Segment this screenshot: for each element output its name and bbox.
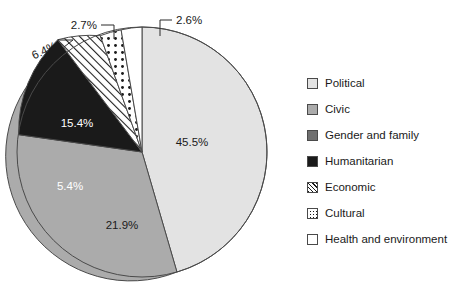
legend-label-economic: Economic bbox=[325, 181, 376, 194]
legend-swatch-gender-and-family bbox=[307, 130, 318, 141]
legend-item-political[interactable]: Political bbox=[307, 70, 453, 96]
callout-label-health-and-environment: 2.6% bbox=[176, 14, 202, 26]
legend-item-economic[interactable]: Economic bbox=[307, 174, 453, 200]
pie-chart: 45.5% 21.9% 5.4% 15.4% 6.4% 2.7% 2.6% Po… bbox=[0, 0, 454, 299]
legend-label-civic: Civic bbox=[325, 103, 350, 116]
legend-item-humanitarian[interactable]: Humanitarian bbox=[307, 148, 453, 174]
legend-label-humanitarian: Humanitarian bbox=[325, 155, 393, 168]
legend-swatch-civic bbox=[307, 104, 318, 115]
legend-swatch-political bbox=[307, 78, 318, 89]
legend-swatch-health-and-environment bbox=[307, 234, 318, 245]
legend-label-gender-and-family: Gender and family bbox=[325, 129, 419, 142]
legend-swatch-humanitarian bbox=[307, 156, 318, 167]
legend: Political Civic Gender and family Humani… bbox=[307, 70, 453, 252]
legend-swatch-economic bbox=[307, 182, 318, 193]
callout-label-cultural: 2.7% bbox=[71, 19, 97, 31]
legend-item-gender-and-family[interactable]: Gender and family bbox=[307, 122, 453, 148]
legend-label-cultural: Cultural bbox=[325, 207, 365, 220]
legend-item-health-and-environment[interactable]: Health and environment bbox=[307, 226, 453, 252]
legend-item-civic[interactable]: Civic bbox=[307, 96, 453, 122]
legend-item-cultural[interactable]: Cultural bbox=[307, 200, 453, 226]
slice-label-gender-and-family: 5.4% bbox=[57, 180, 83, 192]
slice-label-political: 45.5% bbox=[176, 136, 209, 148]
slice-label-civic: 21.9% bbox=[106, 219, 139, 231]
legend-swatch-cultural bbox=[307, 208, 318, 219]
legend-label-health-and-environment: Health and environment bbox=[325, 233, 447, 246]
slice-label-humanitarian: 15.4% bbox=[61, 117, 94, 129]
legend-label-political: Political bbox=[325, 77, 365, 90]
